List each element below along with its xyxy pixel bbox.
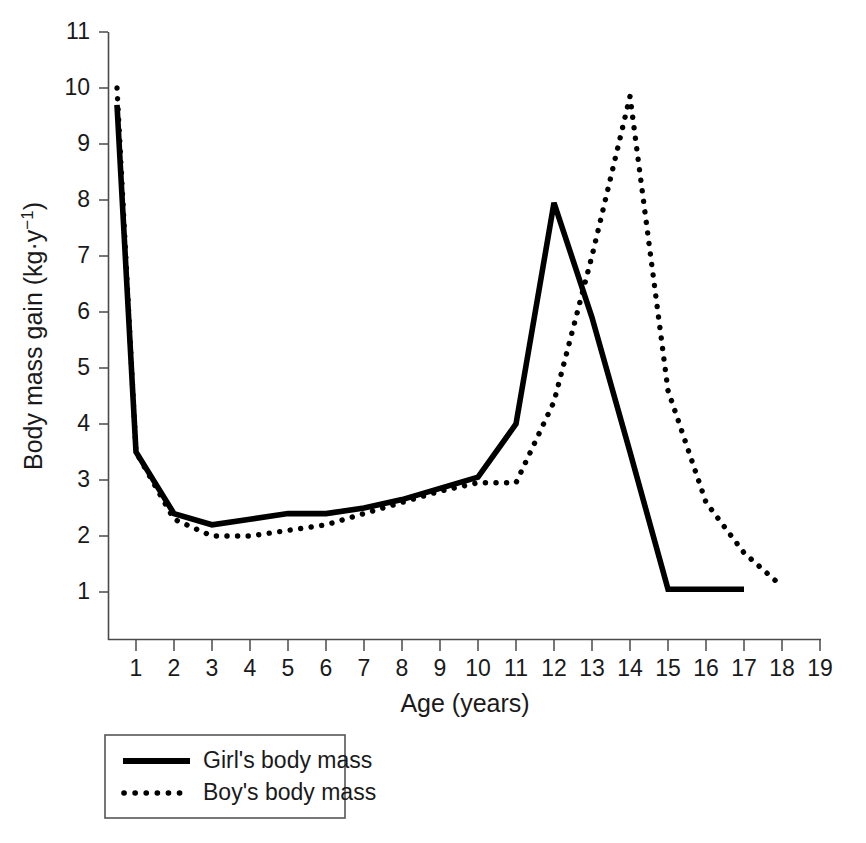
legend-label-girls: Girl's body mass <box>203 747 372 773</box>
x-axis-ticks <box>136 640 820 651</box>
figure-container: 11 10 9 8 7 6 5 4 3 2 1 1234567891011121… <box>0 0 866 843</box>
legend-label-boys: Boy's body mass <box>203 779 376 805</box>
x-axis-tick-labels: 12345678910111213141516171819 <box>130 655 833 681</box>
y-tick-label-4: 4 <box>77 410 90 436</box>
y-axis-title: Body mass gain (kg·y−1) <box>18 202 48 470</box>
y-tick-label-2: 2 <box>77 522 90 548</box>
x-tick-label-5: 5 <box>282 655 295 681</box>
x-tick-label-19: 19 <box>807 655 833 681</box>
x-tick-label-11: 11 <box>504 655 528 681</box>
x-tick-label-13: 13 <box>579 655 605 681</box>
legend[interactable]: Girl's body mass Boy's body mass <box>105 735 376 818</box>
x-tick-label-9: 9 <box>434 655 447 681</box>
x-tick-label-4: 4 <box>244 655 257 681</box>
y-tick-label-11: 11 <box>66 18 90 44</box>
y-tick-label-5: 5 <box>77 354 90 380</box>
body-mass-gain-chart: 11 10 9 8 7 6 5 4 3 2 1 1234567891011121… <box>0 0 866 843</box>
x-tick-label-7: 7 <box>358 655 371 681</box>
y-tick-label-6: 6 <box>77 298 90 324</box>
x-tick-label-12: 12 <box>541 655 567 681</box>
y-tick-label-10: 10 <box>64 74 90 100</box>
x-tick-label-17: 17 <box>731 655 757 681</box>
x-axis-title: Age (years) <box>400 689 529 717</box>
x-tick-label-3: 3 <box>206 655 219 681</box>
x-tick-label-14: 14 <box>617 655 643 681</box>
y-tick-label-9: 9 <box>77 130 90 156</box>
y-tick-label-8: 8 <box>77 186 90 212</box>
x-tick-label-18: 18 <box>769 655 795 681</box>
y-tick-label-7: 7 <box>77 242 90 268</box>
y-tick-label-1: 1 <box>77 578 90 604</box>
x-tick-label-10: 10 <box>465 655 491 681</box>
series-line-boys-body-mass <box>117 88 782 586</box>
series-line-girls-body-mass <box>117 105 744 589</box>
y-axis-tick-labels: 11 10 9 8 7 6 5 4 3 2 1 <box>64 18 90 604</box>
y-axis-ticks <box>99 32 108 592</box>
x-tick-label-1: 1 <box>130 655 143 681</box>
x-tick-label-15: 15 <box>655 655 681 681</box>
x-tick-label-8: 8 <box>396 655 409 681</box>
x-tick-label-6: 6 <box>320 655 333 681</box>
x-tick-label-16: 16 <box>693 655 719 681</box>
y-tick-label-3: 3 <box>77 466 90 492</box>
plot-axes <box>108 32 821 640</box>
x-tick-label-2: 2 <box>168 655 181 681</box>
